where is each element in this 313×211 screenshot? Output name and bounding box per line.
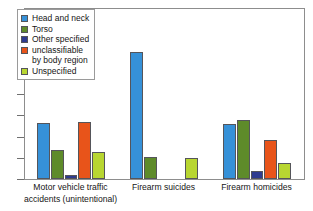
y-axis-tick [17,115,24,116]
bar-group [223,9,292,179]
x-axis: Motor vehicle trafficaccidents (unintent… [24,182,305,211]
legend-item-continuation: by body region [21,55,89,66]
legend-item-label: Unspecified [32,66,76,77]
legend-item-label: Other specified [32,34,89,45]
legend-item[interactable]: Other specified [21,34,89,45]
bar [264,140,277,179]
bar [278,163,291,179]
bar [130,52,143,180]
y-axis-tick [17,94,24,95]
legend-item-label: Head and neck [32,13,89,24]
bar [185,158,198,179]
legend-swatch-icon [21,15,28,22]
y-axis-tick [17,179,24,180]
bar [251,171,264,179]
chart-legend: Head and neckTorsoOther specifiedunclass… [17,9,95,80]
bar [51,150,64,179]
legend-item[interactable]: Torso [21,24,89,35]
bar-chart: Head and neckTorsoOther specifiedunclass… [0,0,313,211]
bar [65,175,78,179]
bar-group [130,9,199,179]
x-axis-label-line: accidents (unintentional) [12,194,129,206]
legend-swatch-icon [21,36,28,43]
legend-swatch-icon [21,47,28,54]
legend-swatch-icon [21,26,28,33]
legend-item[interactable]: Head and neck [21,13,89,24]
bar [223,124,236,179]
y-axis-tick [17,158,24,159]
bar [92,152,105,179]
legend-item[interactable]: unclassifiable [21,45,89,56]
bar [237,120,250,179]
legend-item-label: Torso [32,24,53,35]
legend-item[interactable]: Unspecified [21,66,89,77]
bar [78,122,91,179]
x-axis-label-line: Firearm homicides [198,182,313,194]
bar [37,123,50,179]
legend-swatch-icon [21,68,28,75]
bar [144,157,157,179]
y-axis-tick [17,137,24,138]
legend-item-label: unclassifiable [32,45,83,56]
legend-item-label-line2: by body region [21,55,88,66]
x-axis-label: Firearm homicides [198,182,313,194]
